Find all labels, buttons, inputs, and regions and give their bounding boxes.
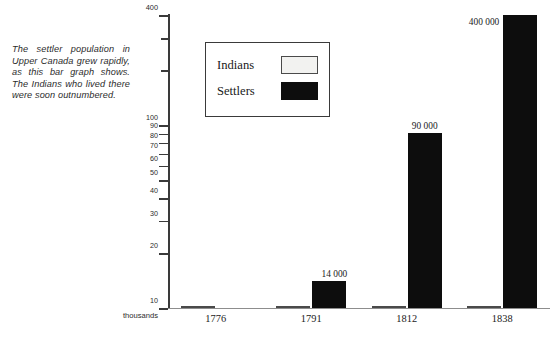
y-axis-tick-label: 50 (150, 168, 158, 177)
bar-group: 1776 (168, 15, 264, 308)
bar-chart-figure: The settler population in Upper Canada g… (0, 0, 559, 341)
x-axis (168, 308, 550, 310)
y-axis-tick-label: 400 (146, 3, 158, 12)
y-axis-tick (159, 134, 168, 136)
y-axis-tick (161, 38, 168, 39)
bar-settlers: 400 000 (503, 15, 537, 308)
bar-indians (372, 306, 406, 308)
y-axis-unit-label: thousands (123, 311, 158, 320)
y-axis-tick-label: 20 (150, 240, 158, 249)
bar-settlers: 14 000 (312, 281, 346, 308)
y-axis-tick (159, 125, 168, 127)
y-axis-tick (159, 253, 168, 255)
y-axis-tick (159, 166, 168, 168)
bar-group: 14 0001791 (264, 15, 360, 308)
y-axis-tick (159, 308, 168, 310)
y-axis-tick (159, 15, 168, 17)
figure-caption: The settler population in Upper Canada g… (12, 44, 130, 102)
y-axis-tick-label: 80 (150, 130, 158, 139)
bar-indians (181, 306, 215, 308)
y-axis-tick-label: 90 (150, 121, 158, 130)
x-axis-category-label: 1812 (396, 313, 417, 324)
y-axis-tick-label: 70 (150, 141, 158, 150)
bar-group: 400 0001838 (455, 15, 551, 308)
bar-group: 90 0001812 (359, 15, 455, 308)
y-axis-tick-label: 60 (150, 153, 158, 162)
y-axis-tick (161, 70, 168, 71)
y-axis-tick (159, 154, 168, 156)
y-axis-tick (159, 221, 168, 223)
bar-value-label: 400 000 (469, 17, 499, 27)
bar-settlers: 90 000 (408, 133, 442, 308)
x-axis-category-label: 1838 (492, 313, 513, 324)
x-axis-category-label: 1791 (301, 313, 322, 324)
y-axis-tick-label: 40 (150, 185, 158, 194)
bar-indians (467, 306, 501, 308)
y-axis-tick (159, 180, 168, 182)
y-axis-tick (159, 198, 168, 200)
y-axis-tick (159, 143, 168, 145)
y-axis-tick-label: 30 (150, 208, 158, 217)
bar-value-label: 14 000 (321, 269, 347, 279)
plot-area: 400100908070605040302010 thousands 17761… (168, 14, 550, 309)
bar-indians (276, 306, 310, 308)
x-axis-category-label: 1776 (205, 313, 226, 324)
bar-value-label: 90 000 (412, 121, 438, 131)
y-axis-tick-label: 10 (150, 296, 158, 305)
